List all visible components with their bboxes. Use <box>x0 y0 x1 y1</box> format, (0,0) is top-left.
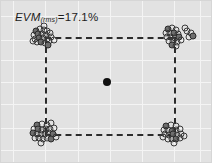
symbol-point <box>45 42 52 49</box>
symbol-point <box>181 133 188 140</box>
dashed-line-bottom <box>45 134 174 136</box>
symbol-point <box>173 43 180 50</box>
symbol-point <box>182 25 189 32</box>
dashed-line-left <box>45 37 47 134</box>
dashed-line-right <box>174 37 176 134</box>
evm-value: 17.1% <box>65 11 99 23</box>
symbol-point <box>171 140 178 147</box>
symbol-point <box>178 37 185 44</box>
evm-subscript-label: (rms) <box>41 16 58 23</box>
dashed-line-top <box>45 37 174 39</box>
symbol-point <box>30 38 37 45</box>
symbol-point <box>38 140 45 147</box>
evm-annotation: EVM(rms)=17.1% <box>15 11 98 23</box>
center-origin-dot <box>103 78 111 86</box>
symbol-point <box>190 33 197 40</box>
evm-metric-label: EVM <box>15 11 41 23</box>
symbol-point <box>53 134 60 141</box>
symbol-point <box>41 23 48 30</box>
symbol-point <box>51 37 58 44</box>
symbol-point <box>160 134 167 141</box>
evm-equals-sign: = <box>58 11 65 23</box>
constellation-diagram: EVM(rms)=17.1% <box>0 0 212 163</box>
